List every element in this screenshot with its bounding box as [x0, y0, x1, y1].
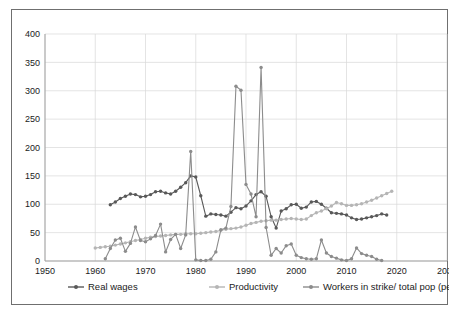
- data-point: [169, 233, 172, 236]
- data-point: [114, 243, 117, 246]
- data-point: [345, 213, 348, 216]
- data-point: [149, 237, 152, 240]
- data-point: [219, 228, 222, 231]
- data-point: [159, 222, 162, 225]
- data-point: [274, 247, 277, 250]
- data-point: [290, 203, 293, 206]
- data-point: [290, 217, 293, 220]
- data-point: [114, 200, 117, 203]
- data-point: [124, 250, 127, 253]
- data-point: [254, 221, 257, 224]
- data-point: [279, 209, 282, 212]
- data-point: [375, 196, 378, 199]
- data-point: [214, 213, 217, 216]
- data-point: [330, 255, 333, 258]
- data-point: [350, 257, 353, 260]
- y-tick-label: 50: [30, 228, 40, 238]
- y-tick-label: 250: [25, 114, 40, 124]
- data-point: [305, 257, 308, 260]
- data-point: [164, 250, 167, 253]
- data-point: [134, 239, 137, 242]
- data-point: [239, 88, 242, 91]
- data-point: [279, 218, 282, 221]
- x-tick-label: 2000: [286, 266, 306, 276]
- data-point: [264, 226, 267, 229]
- data-point: [355, 246, 358, 249]
- data-point: [159, 190, 162, 193]
- data-point: [380, 212, 383, 215]
- data-point: [274, 226, 277, 229]
- data-point: [119, 197, 122, 200]
- data-point: [174, 233, 177, 236]
- data-point: [370, 255, 373, 258]
- data-point: [295, 203, 298, 206]
- data-point: [360, 252, 363, 255]
- data-point: [269, 254, 272, 257]
- data-point: [159, 234, 162, 237]
- data-point: [360, 202, 363, 205]
- data-point: [209, 258, 212, 261]
- data-point: [144, 240, 147, 243]
- data-point: [169, 238, 172, 241]
- data-point: [179, 233, 182, 236]
- data-point: [345, 204, 348, 207]
- y-tick-label: 100: [25, 199, 40, 209]
- data-point: [285, 217, 288, 220]
- data-point: [259, 190, 262, 193]
- legend-item-1[interactable]: Real wages: [68, 281, 138, 292]
- data-point: [295, 254, 298, 257]
- data-point: [385, 213, 388, 216]
- data-point: [214, 250, 217, 253]
- data-point: [285, 244, 288, 247]
- x-tick-label: 1990: [236, 266, 256, 276]
- y-tick-label: 150: [25, 171, 40, 181]
- legend-label: Productivity: [229, 281, 278, 292]
- data-point: [229, 227, 232, 230]
- data-point: [99, 246, 102, 249]
- data-point: [310, 200, 313, 203]
- data-point: [249, 222, 252, 225]
- data-point: [259, 66, 262, 69]
- chart-figure: 0501001502002503003504001950196019701980…: [11, 9, 448, 305]
- line-chart-svg: 0501001502002503003504001950196019701980…: [12, 10, 449, 306]
- data-point: [315, 257, 318, 260]
- data-point: [174, 190, 177, 193]
- data-point: [300, 207, 303, 210]
- x-tick-label: 2030: [437, 266, 449, 276]
- legend-item-2[interactable]: Productivity: [209, 281, 278, 292]
- data-point: [355, 203, 358, 206]
- data-point: [305, 205, 308, 208]
- data-point: [305, 217, 308, 220]
- data-point: [244, 224, 247, 227]
- data-point: [259, 220, 262, 223]
- data-point: [390, 190, 393, 193]
- data-point: [119, 237, 122, 240]
- data-point: [179, 247, 182, 250]
- data-point: [365, 216, 368, 219]
- data-point: [139, 239, 142, 242]
- data-point: [234, 226, 237, 229]
- data-point: [224, 214, 227, 217]
- data-point: [154, 190, 157, 193]
- data-point: [274, 218, 277, 221]
- data-point: [204, 231, 207, 234]
- data-point: [134, 225, 137, 228]
- data-point: [330, 211, 333, 214]
- y-tick-label: 300: [25, 86, 40, 96]
- data-point: [244, 183, 247, 186]
- data-point: [214, 230, 217, 233]
- data-point: [149, 193, 152, 196]
- data-point: [164, 234, 167, 237]
- data-point: [204, 214, 207, 217]
- data-point: [300, 256, 303, 259]
- data-point: [254, 215, 257, 218]
- data-point: [239, 225, 242, 228]
- data-point: [109, 247, 112, 250]
- y-tick-label: 200: [25, 143, 40, 153]
- legend-item-3[interactable]: Workers in strike/ total pop (per millio…: [303, 281, 449, 292]
- legend-marker-icon: [74, 285, 78, 289]
- data-point: [385, 192, 388, 195]
- data-point: [350, 204, 353, 207]
- data-point: [320, 238, 323, 241]
- data-point: [315, 200, 318, 203]
